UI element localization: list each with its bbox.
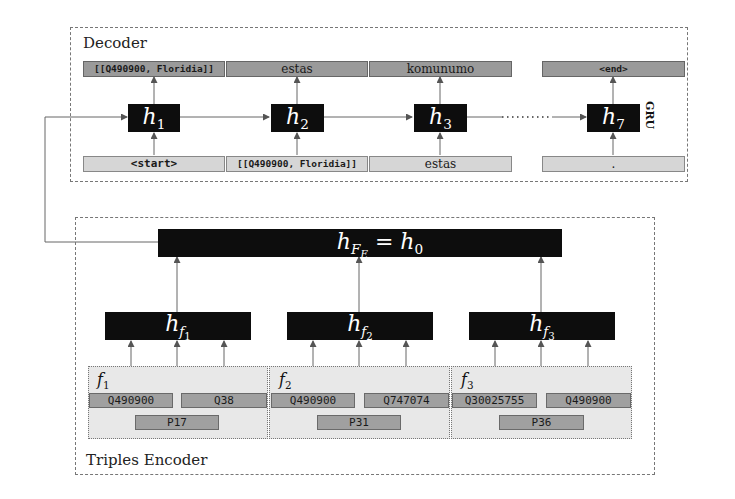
decoder-hidden-state-h1: h1	[128, 104, 180, 132]
triple-predicate: P31	[317, 415, 401, 430]
triple-label-f3: f3	[461, 370, 474, 391]
decoder-title: Decoder	[83, 34, 147, 52]
triple-label-f1: f1	[97, 370, 110, 391]
decoder-hidden-state-h2: h2	[271, 104, 324, 132]
decoder-input-token: estas	[369, 156, 512, 172]
gru-label: GRU	[643, 101, 656, 129]
triple-predicate: P36	[499, 415, 584, 430]
fact-hidden-state-f3: hf3	[469, 312, 615, 340]
aggregate-hidden-state: hFE = h0	[158, 229, 562, 257]
triple-label-f2: f2	[279, 370, 292, 391]
fact-hidden-state-f2: hf2	[287, 312, 433, 340]
decoder-input-token: .	[542, 156, 685, 172]
decoder-input-token: <start>	[83, 156, 225, 172]
triple-object: Q490900	[546, 393, 631, 408]
triple-subject: Q30025755	[452, 393, 537, 408]
triple-object: Q38	[181, 393, 267, 408]
decoder-output-token: <end>	[542, 61, 685, 77]
decoder-output-token: komunumo	[369, 61, 512, 77]
triple-subject: Q490900	[271, 393, 355, 408]
decoder-hidden-state-h7: h7	[587, 104, 640, 132]
triple-predicate: P17	[135, 415, 219, 430]
decoder-output-token: estas	[226, 61, 368, 77]
triple-subject: Q490900	[89, 393, 173, 408]
encoder-title: Triples Encoder	[86, 451, 207, 469]
decoder-input-token: [[Q490900, Floridia]]	[226, 156, 368, 172]
fact-hidden-state-f1: hf1	[105, 312, 251, 340]
decoder-hidden-state-h3: h3	[414, 104, 467, 132]
decoder-output-token: [[Q490900, Floridia]]	[83, 61, 225, 77]
triple-object: Q747074	[364, 393, 449, 408]
